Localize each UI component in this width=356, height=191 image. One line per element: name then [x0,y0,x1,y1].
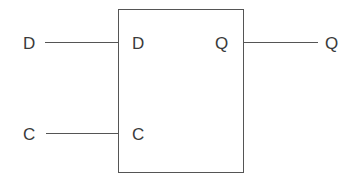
input-wire-c [46,133,118,134]
pin-label-q: Q [215,35,228,52]
external-label-c: C [23,126,35,143]
output-wire-q [244,42,318,43]
pin-label-d: D [132,35,144,52]
external-label-q: Q [325,35,338,52]
external-label-d: D [23,35,35,52]
pin-label-c: C [132,126,144,143]
input-wire-d [45,42,118,43]
